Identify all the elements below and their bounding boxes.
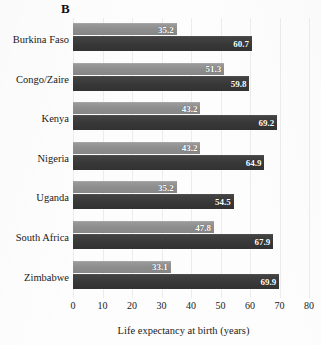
category-label: Kenya	[42, 113, 69, 124]
category-label: Burkina Faso	[13, 34, 69, 45]
x-axis-title: Life expectancy at birth (years)	[0, 325, 321, 336]
bar-group: 47.867.9	[73, 219, 309, 252]
bar-value-label: 54.5	[215, 198, 231, 207]
bar-light: 35.2	[73, 181, 177, 193]
plot-area: 35.260.751.359.843.269.243.264.935.254.5…	[73, 18, 309, 298]
bar-group: 43.264.9	[73, 140, 309, 173]
bar-value-label: 60.7	[233, 40, 249, 49]
bar-light: 47.8	[73, 221, 214, 233]
bar-value-label: 43.2	[182, 104, 198, 113]
bar-value-label: 59.8	[231, 79, 247, 88]
x-axis: 01020304050607080	[73, 298, 309, 318]
panel-letter: B	[61, 2, 70, 16]
x-tick-label: 80	[304, 300, 314, 311]
bar-group: 35.254.5	[73, 179, 309, 212]
category-label: Uganda	[36, 192, 69, 203]
bar-value-label: 69.2	[258, 119, 274, 128]
category-label: South Africa	[16, 232, 69, 243]
bar-dark: 60.7	[73, 36, 252, 51]
bar-value-label: 64.9	[246, 158, 262, 167]
bar-light: 33.1	[73, 261, 171, 273]
bar-value-label: 47.8	[195, 223, 211, 232]
category-label: Zimbabwe	[24, 272, 69, 283]
x-tick-label: 10	[98, 300, 108, 311]
x-tick-label: 50	[216, 300, 226, 311]
bar-group: 35.260.7	[73, 21, 309, 54]
gridline	[309, 18, 310, 298]
bar-group: 51.359.8	[73, 61, 309, 94]
bar-value-label: 33.1	[152, 263, 168, 272]
bar-group: 43.269.2	[73, 100, 309, 133]
bar-light: 35.2	[73, 23, 177, 35]
figure-panel-b: B 35.260.751.359.843.269.243.264.935.254…	[0, 0, 321, 345]
x-tick-label: 30	[157, 300, 167, 311]
x-tick-label: 70	[275, 300, 285, 311]
x-tick-label: 60	[245, 300, 255, 311]
bar-value-label: 69.9	[260, 277, 276, 286]
bar-value-label: 35.2	[158, 183, 174, 192]
bar-value-label: 51.3	[206, 65, 222, 74]
bar-value-label: 35.2	[158, 25, 174, 34]
bar-dark: 59.8	[73, 76, 249, 91]
bar-group: 33.169.9	[73, 259, 309, 292]
x-tick-label: 0	[71, 300, 76, 311]
bar-dark: 69.2	[73, 115, 277, 130]
bar-dark: 54.5	[73, 194, 234, 209]
x-tick-label: 20	[127, 300, 137, 311]
bar-dark: 64.9	[73, 155, 264, 170]
bar-dark: 69.9	[73, 274, 279, 289]
x-tick-label: 40	[186, 300, 196, 311]
bar-value-label: 43.2	[182, 144, 198, 153]
bar-light: 43.2	[73, 142, 200, 154]
category-label: Nigeria	[38, 153, 70, 164]
category-label: Congo/Zaire	[16, 74, 69, 85]
bar-light: 43.2	[73, 102, 200, 114]
bar-dark: 67.9	[73, 234, 273, 249]
bar-value-label: 67.9	[255, 238, 271, 247]
bar-light: 51.3	[73, 63, 224, 75]
